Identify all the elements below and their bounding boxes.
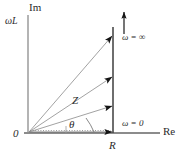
real-axis-label: Re: [163, 126, 175, 137]
origin-label: 0: [13, 128, 19, 139]
resistance-tick-label: R: [109, 140, 116, 151]
impedance-label: Z: [72, 95, 78, 106]
omega-l-axis-label: ωL: [5, 16, 18, 26]
omega-infinity-label: ω = ∞: [122, 33, 145, 42]
angle-arc-theta: [86, 118, 94, 132]
diagram-canvas: [0, 0, 186, 162]
phasor-diagram-figure: Im ωL Re 0 R Z θ ω = ∞ ω = 0: [0, 0, 186, 162]
omega-zero-label: ω = 0: [122, 119, 143, 128]
angle-label: θ: [69, 119, 74, 130]
imaginary-axis-label: Im: [29, 2, 41, 13]
